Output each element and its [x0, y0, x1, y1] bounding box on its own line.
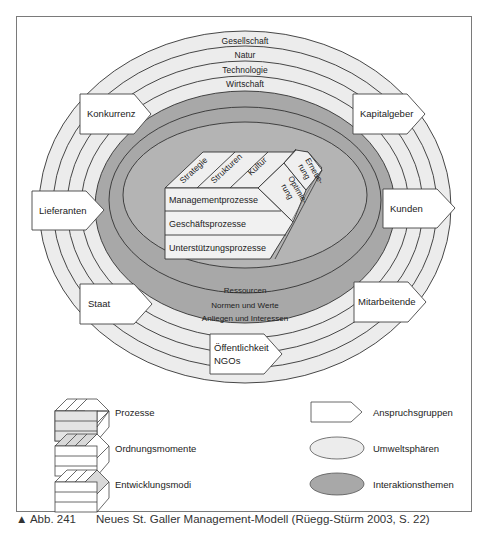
- theme-label-anliegen: Anliegen und Interessen: [202, 314, 288, 323]
- svg-text:Staat: Staat: [88, 298, 111, 309]
- svg-text:Interaktionsthemen: Interaktionsthemen: [373, 479, 454, 490]
- svg-text:Kunden: Kunden: [390, 203, 423, 214]
- svg-text:Mitarbeitende: Mitarbeitende: [358, 296, 416, 307]
- model-diagram: Gesellschaft Natur Technologie Wirtschaf…: [0, 0, 488, 533]
- prozess-unterstuetzung: Unterstützungsprozesse: [169, 243, 266, 253]
- sphere-label-technologie: Technologie: [222, 65, 268, 75]
- caption-marker: ▲ Abb. 241: [16, 513, 96, 525]
- prozess-geschaeft: Geschäftsprozesse: [169, 219, 246, 229]
- sphere-label-gesellschaft: Gesellschaft: [222, 36, 269, 46]
- svg-text:Konkurrenz: Konkurrenz: [87, 108, 136, 119]
- sphere-label-natur: Natur: [235, 50, 256, 60]
- svg-text:Öffentlichkeit: Öffentlichkeit: [214, 342, 269, 353]
- svg-text:Entwicklungsmodi: Entwicklungsmodi: [115, 479, 191, 490]
- caption-text: Neues St. Galler Management-Modell (Rüeg…: [96, 513, 430, 525]
- svg-text:Prozesse: Prozesse: [115, 407, 155, 418]
- svg-text:Lieferanten: Lieferanten: [39, 205, 87, 216]
- svg-text:Anspruchsgruppen: Anspruchsgruppen: [373, 407, 453, 418]
- svg-text:NGOs: NGOs: [214, 355, 241, 366]
- svg-text:Umweltsphären: Umweltsphären: [373, 443, 439, 454]
- prozess-management: Managementprozesse: [169, 195, 258, 205]
- theme-label-normen: Normen und Werte: [211, 301, 279, 310]
- sphere-label-wirtschaft: Wirtschaft: [226, 79, 264, 89]
- svg-text:Ordnungsmomente: Ordnungsmomente: [115, 443, 196, 454]
- figure-caption: ▲ Abb. 241Neues St. Galler Management-Mo…: [16, 513, 430, 525]
- svg-text:Kapitalgeber: Kapitalgeber: [360, 108, 413, 119]
- theme-label-ressourcen: Ressourcen: [224, 286, 267, 295]
